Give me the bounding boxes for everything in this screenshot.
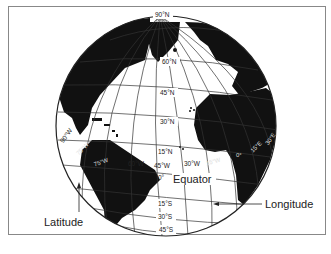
longitude-callout: Longitude <box>265 198 313 210</box>
lat-label-45n: 45°N <box>160 89 175 96</box>
lon-label-0: 0° <box>236 152 242 158</box>
latitude-callout: Latitude <box>44 216 83 228</box>
lat-label-90n: 90°N <box>155 11 170 18</box>
lon-label-45w: 45°W <box>154 162 171 169</box>
equator-label: Equator <box>173 173 212 185</box>
lat-label-30s: 30°S <box>158 213 173 220</box>
lon-label-60w: 60°W <box>128 160 145 167</box>
globe-diagram: 90°N 60°N 45°N 30°N 15°N 0° 15°S 30°S 45… <box>0 0 331 254</box>
caption-fragment <box>10 240 325 252</box>
lat-label-0: 0° <box>158 174 165 181</box>
lat-label-60n: 60°N <box>162 58 177 65</box>
lat-label-15s: 15°S <box>158 200 173 207</box>
lat-label-30n: 30°N <box>160 118 175 125</box>
lon-label-30w: 30°W <box>184 160 201 167</box>
lat-label-15n: 15°N <box>158 148 173 155</box>
lat-label-45s: 45°S <box>159 226 174 233</box>
